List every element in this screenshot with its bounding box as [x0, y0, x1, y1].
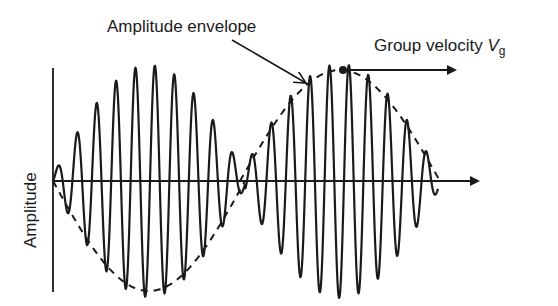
- group-velocity-subscript: g: [499, 44, 506, 58]
- group-velocity-symbol: V: [487, 36, 498, 55]
- group-velocity-label: Group velocity Vg: [374, 37, 505, 54]
- group-velocity-text: Group velocity: [374, 36, 487, 55]
- envelope-peak-dot: [339, 66, 347, 74]
- y-axis-label: Amplitude: [22, 172, 39, 248]
- envelope-pointer-arrow: [232, 40, 306, 83]
- wave-packet-figure: Amplitude envelope Group velocity Vg Amp…: [0, 0, 558, 306]
- amplitude-envelope-label: Amplitude envelope: [107, 18, 256, 35]
